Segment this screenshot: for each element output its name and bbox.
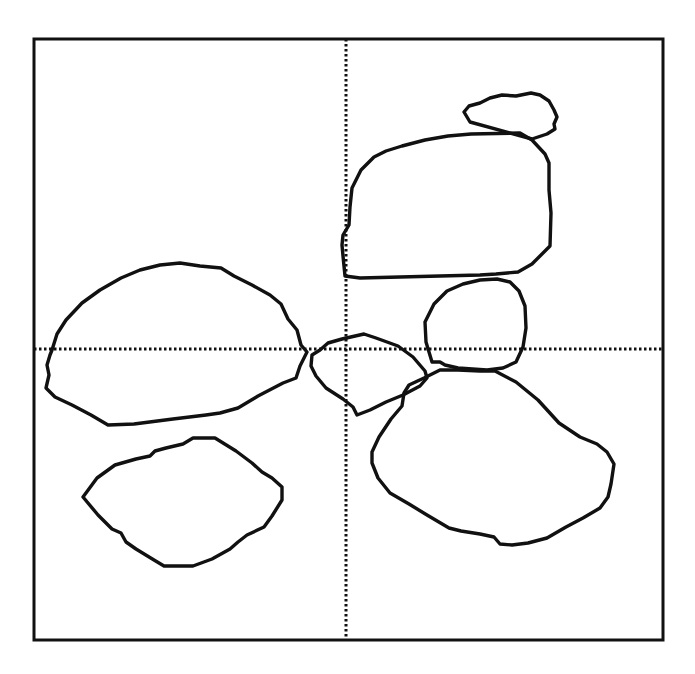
large-lower-right-blob <box>372 370 614 545</box>
round-middle-right-blob <box>425 279 526 370</box>
small-center-blob <box>311 334 427 415</box>
large-left-blob <box>46 263 307 425</box>
lower-left-blob <box>83 438 282 566</box>
large-upper-right-blob <box>342 133 551 278</box>
frame-border <box>34 39 663 640</box>
diagram-canvas <box>0 0 695 674</box>
